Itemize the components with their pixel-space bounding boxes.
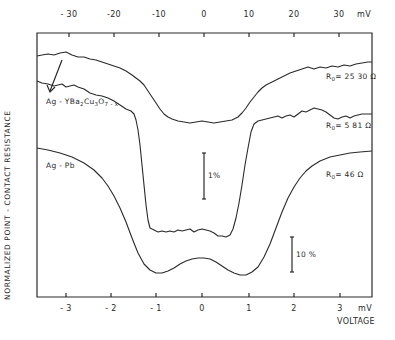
top-tick-label: 30: [334, 11, 345, 19]
scale-bar-1-percent: [202, 153, 206, 199]
top-tick-label: -10: [152, 11, 166, 19]
ybco-sub: 7 - x: [105, 101, 119, 107]
r0-value: = 25 30 Ω: [335, 72, 376, 81]
bottom-tick-label: 3: [337, 305, 342, 313]
top-tick-label: -20: [107, 11, 121, 19]
bottom-tick-label: 1: [246, 305, 251, 313]
ybco-part: Ag - YBa: [46, 97, 80, 106]
bottom-tick-label: - 1: [150, 305, 161, 313]
x-axis-title: VOLTAGE: [337, 318, 375, 326]
label-ag-pb: Ag - Pb: [46, 162, 75, 170]
scale-label-1-percent: 1%: [208, 172, 221, 180]
label-ag-ybco: Ag - YBa2Cu3O7 - x: [46, 98, 118, 108]
top-tick-label: 20: [289, 11, 300, 19]
bottom-axis-unit: mV: [358, 305, 372, 313]
top-axis-unit: mV: [357, 11, 371, 19]
r0-label-581: R0= 5 81 Ω: [326, 122, 371, 132]
r0-value: = 46 Ω: [335, 170, 363, 179]
bottom-tick-label: 0: [199, 305, 204, 313]
top-tick-label: - 30: [61, 11, 78, 19]
y-axis-title: NORMALIZED POINT - CONTACT RESISTANCE: [3, 110, 12, 300]
r0-label-2530: R0= 25 30 Ω: [326, 73, 376, 83]
bottom-tick-label: 2: [291, 305, 296, 313]
bottom-tick-label: - 2: [105, 305, 116, 313]
r0-label-46: R0= 46 Ω: [326, 171, 363, 181]
scale-label-10-percent: 10 %: [296, 251, 316, 259]
curve-ybco-r0-2530: [37, 52, 372, 123]
bottom-tick-label: - 3: [60, 305, 71, 313]
figure: - 30 -20 -10 0 10 20 30 mV - 3 - 2 - 1 0…: [0, 0, 395, 340]
annotation-arrow: [50, 60, 62, 91]
top-tick-label: 0: [201, 11, 206, 19]
top-tick-label: 10: [244, 11, 255, 19]
scale-bar-10-percent: [290, 237, 294, 272]
r0-value: = 5 81 Ω: [335, 121, 371, 130]
ybco-part: Cu: [84, 97, 95, 106]
